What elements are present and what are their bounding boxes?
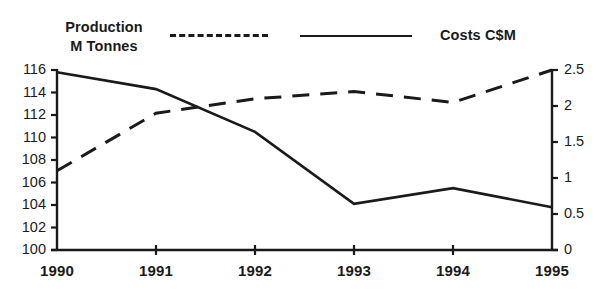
series-line-costs — [57, 72, 552, 207]
plot-area — [0, 0, 596, 295]
series-group — [57, 70, 552, 207]
axes-group — [51, 69, 558, 255]
dual-axis-line-chart: Production M Tonnes Costs C$M 1161141121… — [0, 0, 596, 295]
